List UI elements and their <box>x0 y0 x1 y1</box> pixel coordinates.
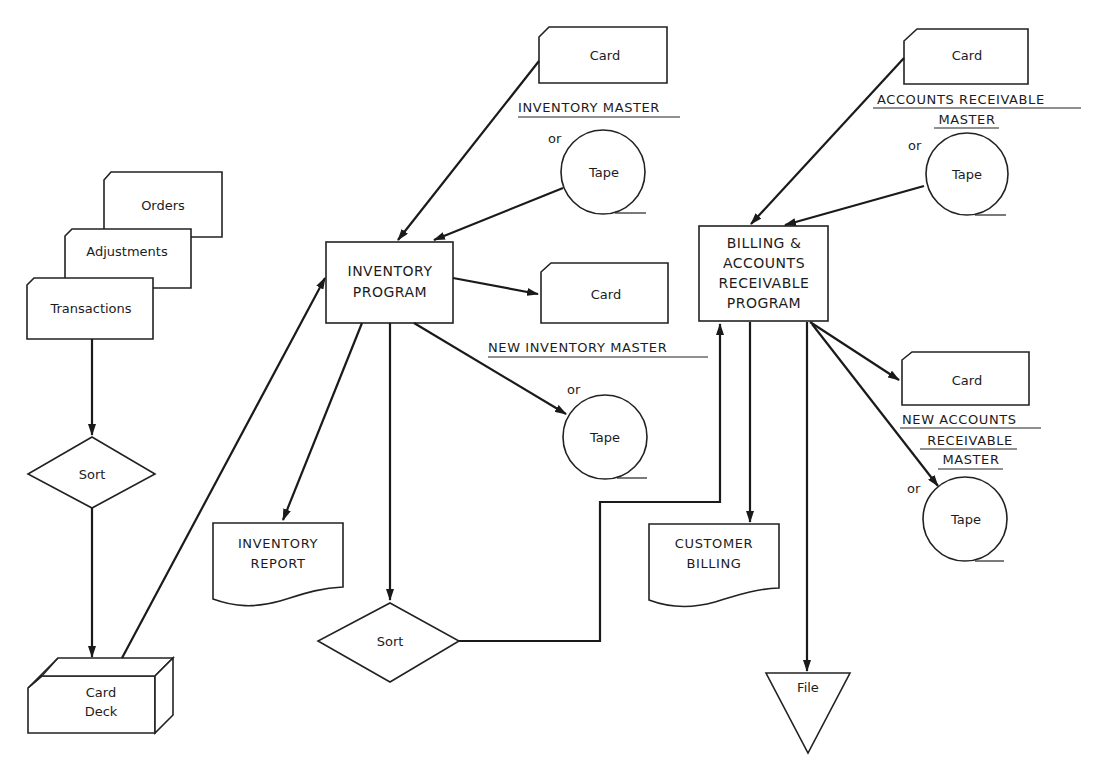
card-orders: Orders <box>104 172 222 237</box>
billing-program-line3: RECEIVABLE <box>719 275 810 291</box>
inventory-report-line2: REPORT <box>251 556 306 571</box>
ar-master-tape: Tape <box>926 133 1008 215</box>
sort-decision-2: Sort <box>318 603 459 682</box>
ar-master-card: Card <box>904 29 1028 84</box>
flow-program-to-new-inventory-card <box>453 278 538 294</box>
card-orders-label: Orders <box>141 198 185 213</box>
inventory-report-document: INVENTORY REPORT <box>213 523 343 606</box>
inventory-program-box: INVENTORY PROGRAM <box>326 242 453 323</box>
new-ar-master-tape: Tape <box>923 477 1007 561</box>
inventory-master-card-label: Card <box>590 48 620 63</box>
inventory-report-line1: INVENTORY <box>238 536 318 551</box>
card-transactions-label: Transactions <box>49 301 131 316</box>
card-adjustments-label: Adjustments <box>86 244 168 259</box>
ar-master-tape-label: Tape <box>951 167 982 182</box>
sort-decision-1: Sort <box>28 437 155 508</box>
new-ar-master-card-label: Card <box>952 373 982 388</box>
flow-ar-tape-to-billing <box>785 186 924 225</box>
billing-program-line4: PROGRAM <box>727 295 801 311</box>
new-ar-master-title-line3: MASTER <box>942 452 999 467</box>
ar-master-card-label: Card <box>952 48 982 63</box>
customer-billing-line2: BILLING <box>686 556 741 571</box>
new-ar-master-card: Card <box>902 352 1029 405</box>
card-deck: Card Deck <box>28 658 173 733</box>
new-ar-master-or: or <box>907 481 921 496</box>
inventory-master-title: INVENTORY MASTER <box>518 100 660 115</box>
sort-2-label: Sort <box>377 634 404 649</box>
inventory-program-line2: PROGRAM <box>353 284 427 300</box>
inventory-master-tape-label: Tape <box>588 165 619 180</box>
billing-program-box: BILLING & ACCOUNTS RECEIVABLE PROGRAM <box>699 226 828 321</box>
ar-master-title-line2: MASTER <box>938 112 995 127</box>
inventory-program-line1: INVENTORY <box>348 263 433 279</box>
system-flowchart: Orders Adjustments Transactions Sort Car… <box>0 0 1106 773</box>
new-inventory-master-card-label: Card <box>591 287 621 302</box>
customer-billing-line1: CUSTOMER <box>675 536 753 551</box>
new-inventory-master-title: NEW INVENTORY MASTER <box>488 340 667 355</box>
flow-inventory-tape-to-program <box>434 188 563 240</box>
file-label: File <box>797 680 819 695</box>
inventory-master-card: Card <box>539 27 667 83</box>
new-ar-master-title-line2: RECEIVABLE <box>927 433 1013 448</box>
inventory-master-tape: Tape <box>561 130 646 214</box>
new-ar-master-tape-label: Tape <box>950 512 981 527</box>
billing-program-line2: ACCOUNTS <box>723 255 805 271</box>
inventory-master-or: or <box>548 131 562 146</box>
flow-inventory-card-to-program <box>398 61 539 240</box>
new-inventory-master-card: Card <box>541 263 668 323</box>
card-deck-line2: Deck <box>85 704 118 719</box>
new-ar-master-title-line1: NEW ACCOUNTS <box>902 412 1017 427</box>
ar-master-or: or <box>908 138 922 153</box>
file-storage: File <box>766 673 850 753</box>
flow-program-to-new-inventory-tape <box>414 323 566 414</box>
flow-billing-to-new-ar-card <box>810 322 899 380</box>
card-deck-line1: Card <box>86 685 116 700</box>
flow-program-to-inventory-report <box>283 323 362 520</box>
sort-1-label: Sort <box>79 467 106 482</box>
billing-program-line1: BILLING & <box>727 235 802 251</box>
new-inventory-master-or: or <box>567 382 581 397</box>
new-inventory-master-tape-label: Tape <box>589 430 620 445</box>
ar-master-title-line1: ACCOUNTS RECEIVABLE <box>877 92 1045 107</box>
card-transactions: Transactions <box>27 278 153 339</box>
new-inventory-master-tape: Tape <box>563 395 647 479</box>
customer-billing-document: CUSTOMER BILLING <box>649 524 779 607</box>
